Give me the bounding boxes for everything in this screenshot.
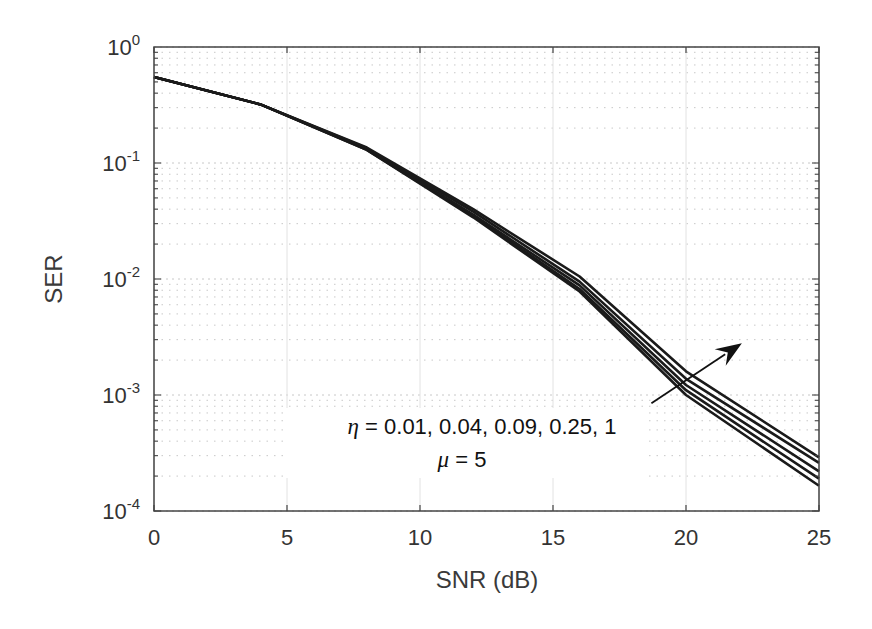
annotation-mu: μ = 5 [437,447,487,472]
ser-vs-snr-chart: 051015202510010-110-210-310-4 SNR (dB) S… [0,0,872,629]
mu-symbol: μ [437,447,450,472]
x-tick-label: 10 [408,525,432,550]
annotation-eta: η = 0.01, 0.04, 0.09, 0.25, 1 [348,414,617,439]
eta-symbol: η [348,414,359,439]
x-tick-label: 15 [541,525,565,550]
y-tick-label: 100 [107,31,140,60]
y-tick-label: 10-4 [102,495,140,524]
y-tick-label: 10-2 [102,263,140,292]
x-tick-label: 20 [674,525,698,550]
y-tick-label: 10-1 [102,147,140,176]
eta-values: = 0.01, 0.04, 0.09, 0.25, 1 [359,414,616,439]
y-axis-label: SER [40,254,67,303]
x-tick-label: 25 [807,525,831,550]
y-tick-label: 10-3 [102,379,140,408]
x-axis-label: SNR (dB) [436,566,539,593]
mu-value: = 5 [449,447,486,472]
x-tick-label: 0 [148,525,160,550]
x-tick-label: 5 [281,525,293,550]
